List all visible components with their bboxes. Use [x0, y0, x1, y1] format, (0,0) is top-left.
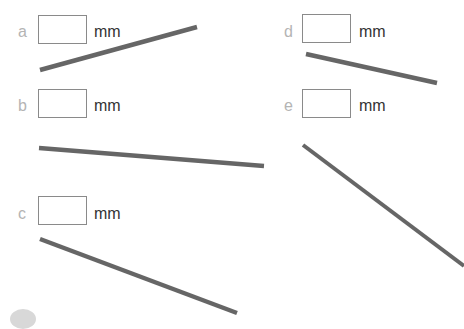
line-e [303, 145, 464, 266]
unit-label-d: mm [359, 24, 386, 40]
unit-label-c: mm [94, 206, 121, 222]
answer-box-c[interactable] [38, 196, 87, 225]
item-label-a: a [18, 24, 27, 40]
item-label-b: b [18, 98, 27, 114]
line-b [39, 148, 264, 166]
unit-label-b: mm [94, 98, 121, 114]
answer-box-d[interactable] [302, 14, 351, 43]
line-c [40, 239, 237, 313]
unit-label-a: mm [94, 24, 121, 40]
unit-label-e: mm [359, 98, 386, 114]
item-label-d: d [284, 24, 293, 40]
answer-box-b[interactable] [38, 89, 87, 118]
item-label-e: e [284, 98, 293, 114]
answer-box-e[interactable] [302, 89, 351, 118]
decorative-circle [10, 309, 36, 329]
answer-box-a[interactable] [38, 15, 87, 44]
line-d [306, 54, 437, 83]
item-label-c: c [18, 206, 26, 222]
